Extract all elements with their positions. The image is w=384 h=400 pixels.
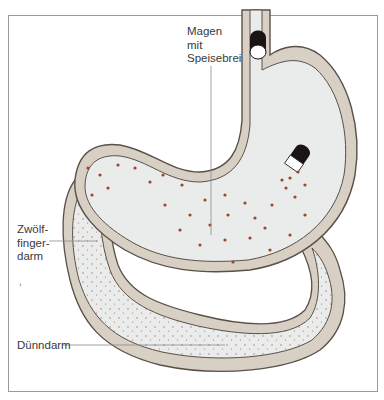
stray-mark: , <box>19 276 22 287</box>
label-stomach: Magen mit Speisebrei <box>187 25 241 66</box>
cardia-sphincter <box>250 31 266 60</box>
label-duodenum-line-3: darm <box>17 250 50 264</box>
label-duodenum: Zwölf- finger- darm <box>17 223 50 264</box>
label-small-intestine: Dünndarm <box>17 339 71 353</box>
label-stomach-line-1: Magen <box>187 25 241 39</box>
label-stomach-line-2: mit <box>187 39 241 53</box>
label-duodenum-line-1: Zwölf- <box>17 223 50 237</box>
label-stomach-line-3: Speisebrei <box>187 52 241 66</box>
label-duodenum-line-2: finger- <box>17 237 50 251</box>
